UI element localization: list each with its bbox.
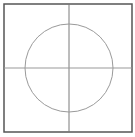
diagram-canvas [0, 0, 135, 137]
